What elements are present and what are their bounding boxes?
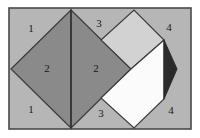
region-label-3-top: 3 bbox=[96, 17, 102, 29]
region-label-2-right: 2 bbox=[93, 62, 99, 74]
region-label-1-top: 1 bbox=[28, 22, 34, 34]
region-label-3-bottom: 3 bbox=[98, 107, 104, 119]
dissection-svg-canvas: 12132344 bbox=[0, 0, 200, 138]
region-label-1-bottom: 1 bbox=[28, 103, 34, 115]
region-label-4-top: 4 bbox=[166, 21, 172, 33]
region-label-4-bottom: 4 bbox=[168, 104, 174, 116]
region-label-2-left: 2 bbox=[44, 62, 50, 74]
geometric-dissection-figure: 12132344 bbox=[0, 0, 200, 138]
